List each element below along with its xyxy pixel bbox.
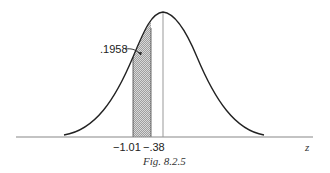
axis-label-z: z (305, 141, 309, 153)
tick-label-lower: −1.01 (113, 142, 141, 153)
normal-curve-figure (0, 0, 330, 173)
normal-curve (64, 12, 264, 135)
figure-caption: Fig. 8.2.5 (143, 155, 186, 167)
shaded-area (133, 0, 151, 137)
tick-label-upper: −.38 (143, 142, 165, 153)
area-label: .1958 (100, 44, 128, 55)
